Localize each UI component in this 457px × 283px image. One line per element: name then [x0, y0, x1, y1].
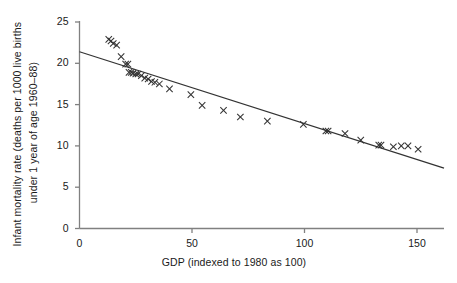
y-tick-label: 0 [47, 222, 69, 234]
data-points [106, 36, 422, 152]
data-point-marker [166, 86, 172, 92]
axes [80, 21, 445, 229]
tick-marks [75, 22, 417, 233]
data-point-marker [264, 118, 270, 124]
data-point-marker [220, 107, 226, 113]
x-tick-label: 100 [293, 237, 317, 249]
y-tick-label: 15 [47, 98, 69, 110]
y-tick-label: 5 [47, 180, 69, 192]
y-tick-label: 25 [47, 15, 69, 27]
y-tick-label: 10 [47, 139, 69, 151]
data-point-marker [405, 143, 411, 149]
y-tick-label: 20 [47, 56, 69, 68]
data-point-marker [398, 143, 404, 149]
data-point-marker [358, 137, 364, 143]
x-tick-label: 0 [68, 237, 92, 249]
x-tick-label: 150 [405, 237, 429, 249]
data-point-marker [118, 53, 124, 59]
x-tick-label: 50 [180, 237, 204, 249]
data-point-marker [199, 102, 205, 108]
data-point-marker [237, 114, 243, 120]
data-point-marker [342, 130, 348, 136]
data-point-marker [415, 146, 421, 152]
data-point-marker [188, 91, 194, 97]
chart-figure: Infant mortality rate (deaths per 1000 l… [0, 0, 457, 283]
data-point-marker [390, 144, 396, 150]
